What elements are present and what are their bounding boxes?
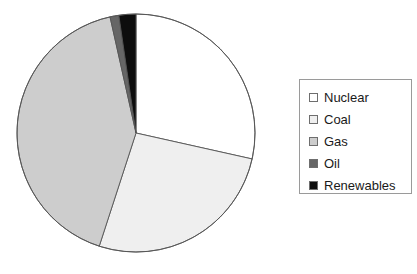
legend-swatch-gas [309,137,318,146]
legend-swatch-renewables [309,181,318,190]
legend-item-oil[interactable]: Oil [309,153,411,174]
legend-label-gas: Gas [324,135,348,148]
legend-item-coal[interactable]: Coal [309,109,411,130]
pie-chart-figure: Nuclear Coal Gas Oil Renewables [0,0,417,274]
legend-label-nuclear: Nuclear [324,91,369,104]
pie-slice-group [17,14,255,252]
legend-swatch-nuclear [309,93,318,102]
legend-label-oil: Oil [324,157,340,170]
chart-legend: Nuclear Coal Gas Oil Renewables [299,79,412,194]
legend-label-renewables: Renewables [324,179,396,192]
legend-label-coal: Coal [324,113,351,126]
legend-item-nuclear[interactable]: Nuclear [309,87,411,108]
legend-swatch-coal [309,115,318,124]
legend-item-gas[interactable]: Gas [309,131,411,152]
legend-swatch-oil [309,159,318,168]
legend-item-renewables[interactable]: Renewables [309,175,411,196]
